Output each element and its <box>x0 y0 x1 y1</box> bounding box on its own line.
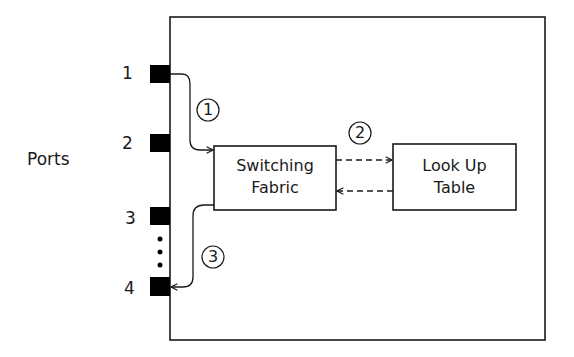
ellipsis-dots <box>158 237 163 268</box>
port-2 <box>150 134 170 152</box>
ports-label: Ports <box>27 151 70 168</box>
lookup-table-text: Look Up Table <box>393 155 516 199</box>
port-4 <box>150 277 170 296</box>
lookup-table-line2: Table <box>393 177 516 199</box>
arrow-step-3 <box>171 205 214 287</box>
step-2-label: 2 <box>355 125 365 141</box>
step-1-label: 1 <box>203 102 213 118</box>
switching-fabric-line2: Fabric <box>214 177 336 199</box>
port-1 <box>150 65 170 83</box>
port-3 <box>150 207 170 225</box>
switching-fabric-text: Switching Fabric <box>214 155 336 199</box>
port-2-label: 2 <box>122 135 133 152</box>
port-4-label: 4 <box>124 280 135 297</box>
port-1-label: 1 <box>122 65 133 82</box>
step-3-label: 3 <box>208 249 218 265</box>
port-3-label: 3 <box>125 210 136 227</box>
lookup-table-line1: Look Up <box>393 155 516 177</box>
switching-fabric-line1: Switching <box>214 155 336 177</box>
